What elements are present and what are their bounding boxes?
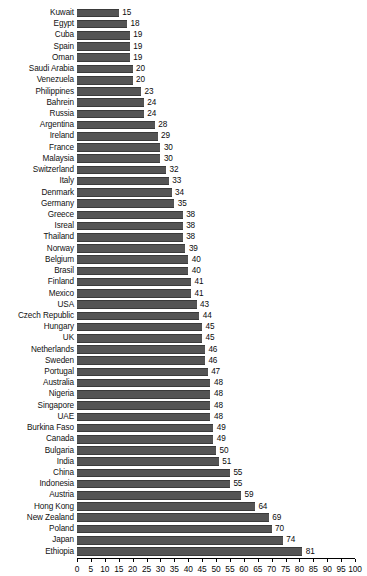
bar-fill: [77, 233, 183, 242]
bar-fill: [77, 76, 133, 85]
x-axis-tick: [174, 559, 175, 562]
bar-fill: [77, 98, 144, 107]
category-label: Poland: [0, 523, 74, 534]
bar: [77, 401, 210, 410]
category-label: Kuwait: [0, 7, 74, 18]
bar: [77, 491, 241, 500]
bar-row: USA43: [0, 299, 367, 310]
category-label: Sweden: [0, 355, 74, 366]
bar-value-label: 69: [272, 512, 281, 523]
bar: [77, 513, 269, 522]
bar-value-label: 51: [222, 456, 231, 467]
category-label: Singapore: [0, 400, 74, 411]
x-axis-tick: [119, 559, 120, 562]
bar-fill: [77, 211, 183, 220]
bar-fill: [77, 547, 302, 556]
bar: [77, 211, 183, 220]
bar-row: Venezuela20: [0, 75, 367, 86]
bar: [77, 278, 191, 287]
category-label: New Zealand: [0, 512, 74, 523]
bar-value-label: 41: [194, 288, 203, 299]
bar-row: Greece38: [0, 209, 367, 220]
bar-fill: [77, 480, 230, 489]
category-label: Germany: [0, 198, 74, 209]
category-label: Czech Republic: [0, 310, 74, 321]
x-axis-tick: [160, 559, 161, 562]
bar-value-label: 19: [133, 29, 142, 40]
bar-row: Kuwait15: [0, 8, 367, 19]
bar-fill: [77, 390, 210, 399]
bar: [77, 87, 141, 96]
bar-fill: [77, 536, 283, 545]
bar: [77, 188, 172, 197]
bar: [77, 390, 210, 399]
category-label: Ethiopia: [0, 546, 74, 557]
bar-value-label: 45: [206, 332, 215, 343]
bar-row: Australia48: [0, 378, 367, 389]
category-label: Brasil: [0, 265, 74, 276]
bar-row: Belgium40: [0, 254, 367, 265]
bar: [77, 424, 213, 433]
bar-fill: [77, 267, 188, 276]
bar: [77, 289, 191, 298]
category-label: Isreal: [0, 220, 74, 231]
bar-row: Netherlands46: [0, 344, 367, 355]
category-label: Austria: [0, 489, 74, 500]
bar: [77, 469, 230, 478]
bar-fill: [77, 491, 241, 500]
bar-value-label: 38: [186, 209, 195, 220]
x-axis-tick: [286, 559, 287, 562]
bar-row: France30: [0, 142, 367, 153]
bar: [77, 244, 185, 253]
bar-value-label: 39: [189, 243, 198, 254]
bar-value-label: 41: [194, 276, 203, 287]
bar-value-label: 28: [158, 119, 167, 130]
bar-fill: [77, 65, 133, 74]
bar: [77, 76, 133, 85]
bar-fill: [77, 166, 166, 175]
bar-row: Bulgaria50: [0, 445, 367, 456]
bar-fill: [77, 53, 130, 62]
bar-value-label: 15: [122, 7, 131, 18]
category-label: UAE: [0, 411, 74, 422]
bar-value-label: 35: [178, 198, 187, 209]
bar-value-label: 48: [214, 411, 223, 422]
bar-value-label: 46: [208, 344, 217, 355]
category-label: Cuba: [0, 29, 74, 40]
bar-value-label: 38: [186, 231, 195, 242]
bar: [77, 166, 166, 175]
bar-row: Hong Kong64: [0, 501, 367, 512]
category-label: Belgium: [0, 254, 74, 265]
category-label: Italy: [0, 175, 74, 186]
bar-value-label: 34: [175, 187, 184, 198]
x-axis-tick: [327, 559, 328, 562]
category-label: Philippines: [0, 86, 74, 97]
bar-fill: [77, 356, 205, 365]
bar-value-label: 40: [192, 265, 201, 276]
bar: [77, 547, 302, 556]
bar-row: Russia24: [0, 108, 367, 119]
bar-fill: [77, 312, 199, 321]
bar-value-label: 24: [147, 108, 156, 119]
bar-value-label: 48: [214, 377, 223, 388]
bar: [77, 300, 197, 309]
bar-value-label: 50: [220, 445, 229, 456]
bar-value-label: 30: [164, 153, 173, 164]
x-axis-tick: [133, 559, 134, 562]
bar-value-label: 32: [169, 164, 178, 175]
bar-value-label: 38: [186, 220, 195, 231]
x-axis-tick: [355, 559, 356, 562]
bar: [77, 154, 160, 163]
bar-row: Ireland29: [0, 131, 367, 142]
bar-fill: [77, 42, 130, 51]
category-label: Burkina Faso: [0, 422, 74, 433]
bar: [77, 255, 188, 264]
bar-fill: [77, 110, 144, 119]
category-label: Nigeria: [0, 388, 74, 399]
bar: [77, 525, 272, 534]
category-label: Hong Kong: [0, 501, 74, 512]
bar-value-label: 81: [306, 546, 315, 557]
category-label: Egypt: [0, 18, 74, 29]
bar-row: Finland41: [0, 277, 367, 288]
